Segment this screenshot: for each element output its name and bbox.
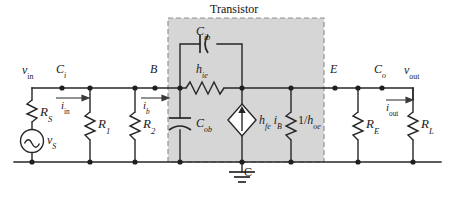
transistor-box-title: Transistor [210,2,258,17]
resistor-r2-symbol [130,112,140,140]
component-label-cob: Cob [196,117,212,132]
resistor-rl-symbol [408,112,418,140]
component-label-hoe: 1/hoe [298,114,321,129]
dot-rl-bottom [410,159,415,164]
node-label-vin: vin [22,64,33,79]
circuit-diagram: Transistor vin Ci B E Co vout C iin ib i… [0,0,453,197]
dot-co [379,85,384,90]
arrow-iout-head [406,97,413,103]
node-label-ci: Ci [56,63,66,78]
dot-re-top [355,85,360,90]
dot-hoe-bottom [288,159,293,164]
node-label-co: Co [374,63,386,78]
dot-r2-bottom [132,159,137,164]
node-label-c-ground: C [244,166,252,178]
current-label-iout: iout [386,102,398,116]
component-label-r1: R1 [98,117,110,133]
dot-r1-bottom [87,159,92,164]
component-label-rl: RL [421,117,434,133]
resistor-rs-symbol [27,100,37,122]
schematic-canvas [0,0,453,197]
resistor-re-symbol [353,112,363,140]
dot-hoe-top [288,85,293,90]
transistor-boundary-box [168,18,324,162]
dot-base [152,85,157,90]
component-label-hie: hie [196,63,208,78]
dot-cob-top [177,85,182,90]
dot-r2-top [132,85,137,90]
dot-r1-top [87,85,92,90]
resistor-r1-symbol [85,112,95,140]
component-label-vs: vS [47,134,56,149]
dot-re-bottom [355,159,360,164]
dot-ground-node [239,159,244,164]
arrow-iin-head [82,95,89,101]
component-label-dependent-source: hfe iB [259,114,282,129]
current-label-ib: ib [143,100,150,114]
dot-e [332,85,337,90]
dot-source-bottom [29,159,34,164]
dot-ci [59,85,64,90]
node-label-e: E [330,63,337,75]
component-label-re: RE [366,117,379,133]
dot-depsrc-top [239,85,244,90]
current-label-iin: iin [61,100,70,114]
component-label-r2: R2 [143,117,155,133]
component-label-rs: RS [40,105,52,121]
ac-source-circle [21,130,44,153]
component-label-cib: Cib [196,25,210,40]
node-label-b: B [150,63,157,75]
node-label-vout: vout [404,64,419,79]
dot-cob-bottom [177,159,182,164]
